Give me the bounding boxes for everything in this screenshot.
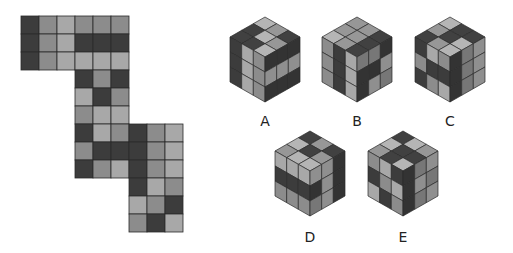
option-cube-c[interactable]	[415, 17, 485, 102]
option-label-e: E	[393, 229, 413, 245]
option-cube-b[interactable]	[322, 17, 392, 102]
option-label-c: C	[440, 113, 460, 129]
option-cube-a[interactable]	[230, 17, 300, 102]
option-label-a: A	[255, 113, 275, 129]
option-cube-d[interactable]	[275, 131, 345, 216]
option-cube-e[interactable]	[368, 131, 438, 216]
option-label-b: B	[347, 113, 367, 129]
option-label-d: D	[300, 229, 320, 245]
